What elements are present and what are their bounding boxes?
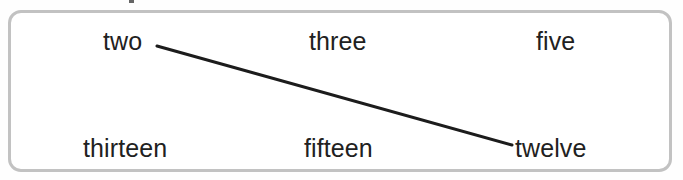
- word-option-fifteen[interactable]: fifteen: [304, 136, 373, 161]
- word-option-twelve[interactable]: twelve: [515, 136, 586, 161]
- word-option-thirteen[interactable]: thirteen: [83, 136, 167, 161]
- word-option-five[interactable]: five: [536, 29, 575, 54]
- match-line-two-twelve[interactable]: [157, 46, 512, 145]
- word-option-two[interactable]: two: [103, 29, 142, 54]
- screenshot-root: two three five thirteen fifteen twelve: [0, 0, 683, 180]
- panel-content: two three five thirteen fifteen twelve: [0, 0, 683, 180]
- word-option-three[interactable]: three: [309, 29, 366, 54]
